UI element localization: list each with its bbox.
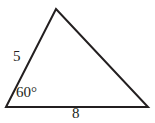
bottom-left-angle-label: 60°	[16, 85, 37, 100]
base-side-length-label: 8	[72, 106, 80, 121]
triangle-figure: 5 60° 8	[0, 0, 155, 123]
left-side-length-label: 5	[13, 49, 21, 64]
